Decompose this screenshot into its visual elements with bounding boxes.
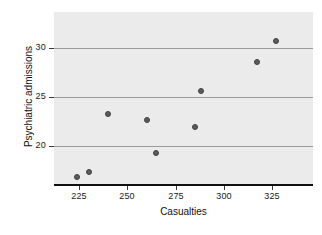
x-tick-225 (79, 186, 80, 190)
data-point (86, 169, 92, 175)
y-axis-title: Psychiatric admissions (23, 17, 34, 177)
y-tick-30 (49, 48, 54, 49)
x-tick-label-300: 300 (204, 191, 244, 201)
scatter-plot-figure: 225250275300325 202530 Casualties Psychi… (0, 0, 322, 235)
x-tick-325 (272, 186, 273, 190)
y-tick-20 (49, 146, 54, 147)
data-point (144, 117, 150, 123)
data-point (153, 150, 159, 156)
data-point (192, 124, 198, 130)
x-tick-label-325: 325 (252, 191, 292, 201)
data-point (198, 88, 204, 94)
data-point (74, 174, 80, 180)
x-tick-250 (127, 186, 128, 190)
gridline-y-25 (54, 97, 313, 98)
gridline-y-30 (54, 48, 313, 49)
x-tick-label-250: 250 (107, 191, 147, 201)
data-point (105, 111, 111, 117)
x-axis-line (54, 184, 313, 186)
x-tick-275 (176, 186, 177, 190)
x-axis-title: Casualties (54, 206, 313, 217)
data-point (273, 38, 279, 44)
x-tick-label-275: 275 (156, 191, 196, 201)
x-tick-300 (224, 186, 225, 190)
gridline-y-20 (54, 146, 313, 147)
plot-area (54, 12, 313, 184)
data-point (254, 59, 260, 65)
x-tick-label-225: 225 (59, 191, 99, 201)
y-tick-25 (49, 97, 54, 98)
